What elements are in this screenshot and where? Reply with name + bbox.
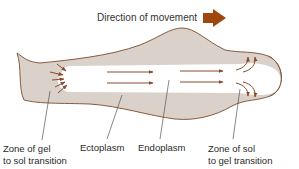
gel-to-sol-zone-label: Zone of gel to sol transition	[3, 143, 67, 167]
endoplasm-label: Endoplasm	[138, 142, 186, 154]
sol-to-gel-zone-label: Zone of sol to gel transition	[208, 143, 272, 167]
direction-of-movement-label: Direction of movement	[97, 12, 197, 24]
sol-to-gel-line1: Zone of sol	[208, 143, 272, 155]
sol-to-gel-line2: to gel transition	[208, 155, 272, 167]
ectoplasm-label: Ectoplasm	[80, 142, 124, 154]
right-arrow-icon	[203, 9, 226, 27]
gel-to-sol-line2: to sol transition	[3, 155, 67, 167]
gel-to-sol-line1: Zone of gel	[3, 143, 67, 155]
endoplasm-channel	[58, 63, 281, 95]
